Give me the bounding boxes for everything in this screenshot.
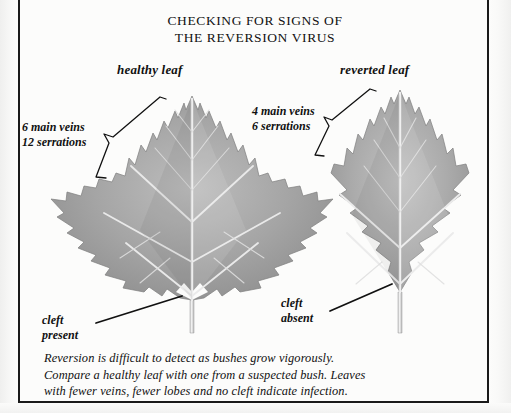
healthy-cleft-pointer [96,296,182,323]
page-title-line-1: CHECKING FOR SIGNS OF [60,12,450,29]
reverted-vein-annotation-line-1: 4 main veins [252,104,315,119]
reverted-cleft-annotation: cleft absent [281,296,313,325]
figure-footnote-line-1: Reversion is difficult to detect as bush… [44,350,474,367]
reverted-vein-annotation-line-2: 6 serrations [252,119,315,134]
page-title: CHECKING FOR SIGNS OF THE REVERSION VIRU… [60,12,450,46]
reverted-leaf-drawing [331,90,469,333]
reverted-cleft-annotation-line-2: absent [281,311,313,326]
reverted-cleft-pointer [330,284,392,311]
figure-page: CHECKING FOR SIGNS OF THE REVERSION VIRU… [0,0,511,413]
figure-footnote-line-2: Compare a healthy leaf with one from a s… [44,367,474,384]
healthy-cleft-annotation: cleft present [42,313,78,342]
healthy-vein-annotation-line-1: 6 main veins [22,120,86,135]
healthy-vein-annotation: 6 main veins 12 serrations [22,120,86,149]
reverted-vein-annotation: 4 main veins 6 serrations [252,104,315,133]
healthy-cleft-annotation-line-2: present [42,328,78,343]
figure-footnote-line-3: with fewer veins, fewer lobes and no cle… [44,383,474,400]
healthy-vein-annotation-line-2: 12 serrations [22,135,86,150]
figure-footnote: Reversion is difficult to detect as bush… [44,350,474,400]
reverted-cleft-annotation-line-1: cleft [281,296,313,311]
healthy-cleft-annotation-line-1: cleft [42,313,78,328]
healthy-leaf-caption: healthy leaf [117,62,183,78]
page-title-line-2: THE REVERSION VIRUS [60,29,450,46]
reverted-leaf-caption: reverted leaf [340,62,409,78]
